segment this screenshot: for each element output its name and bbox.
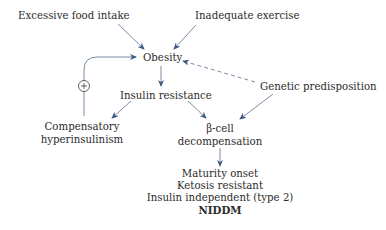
outcome-insulin-independent: Insulin independent (type 2) <box>147 192 294 204</box>
arrow-food-to-obesity <box>118 24 144 49</box>
beta-cell-line-2: decompensation <box>178 135 263 148</box>
outcome-ketosis-resistant: Ketosis resistant <box>147 180 294 192</box>
arrow-resistance-to-compensatory <box>112 101 131 118</box>
niddm-pathogenesis-diagram: Excessive food intake Inadequate exercis… <box>0 0 386 230</box>
feedback-loop-arrow <box>84 57 136 116</box>
node-genetic-predisposition: Genetic predisposition <box>260 80 377 93</box>
outcome-maturity-onset: Maturity onset <box>147 168 294 180</box>
node-beta-cell-decompensation: β-cell decompensation <box>178 122 263 148</box>
node-excessive-food-intake: Excessive food intake <box>18 9 130 22</box>
node-insulin-resistance: Insulin resistance <box>120 89 212 102</box>
arrow-genetic-to-beta-cell <box>240 94 273 119</box>
node-inadequate-exercise: Inadequate exercise <box>195 9 300 22</box>
beta-cell-line-1: β-cell <box>178 122 263 135</box>
arrow-exercise-to-obesity <box>174 25 196 49</box>
compensatory-line-1: Compensatory <box>41 120 124 133</box>
outcome-niddm: NIDDM <box>147 204 294 216</box>
node-obesity: Obesity <box>143 51 182 64</box>
arrow-genetic-to-obesity-dashed <box>183 61 255 82</box>
node-niddm-outcome: Maturity onset Ketosis resistant Insulin… <box>147 168 294 216</box>
arrow-resistance-to-beta-cell <box>188 101 206 118</box>
compensatory-line-2: hyperinsulinism <box>41 133 124 146</box>
node-compensatory-hyperinsulinism: Compensatory hyperinsulinism <box>41 120 124 146</box>
